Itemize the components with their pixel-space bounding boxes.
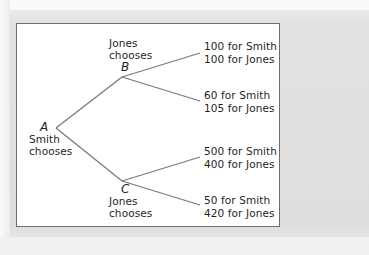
node-a-caption: Smith chooses [29,133,72,157]
edge-b-payoff-2 [122,77,200,101]
payoff-3: 500 for Smith 400 for Jones [204,145,277,170]
node-b-caption: Jones chooses [109,37,152,61]
payoff-1: 100 for Smith 100 for Jones [204,40,277,65]
payoff-1-smith: 100 for Smith [204,40,277,53]
game-tree-edges [0,0,369,255]
payoff-4-smith: 50 for Smith [204,194,275,207]
node-a-label: A [40,121,48,133]
edge-a-b [56,77,122,128]
node-c-caption-line2: chooses [109,207,152,219]
payoff-2: 60 for Smith 105 for Jones [204,89,275,114]
node-a-caption-line2: chooses [29,145,72,157]
node-c-caption: Jones chooses [109,195,152,219]
payoff-4: 50 for Smith 420 for Jones [204,194,275,219]
payoff-1-jones: 100 for Jones [204,53,277,66]
payoff-4-jones: 420 for Jones [204,207,275,220]
payoff-2-jones: 105 for Jones [204,102,275,115]
edge-c-payoff-3 [122,157,200,181]
payoff-3-jones: 400 for Jones [204,158,277,171]
node-c-caption-line1: Jones [109,195,152,207]
payoff-2-smith: 60 for Smith [204,89,275,102]
node-b-caption-line2: chooses [109,49,152,61]
node-c-label: C [121,183,129,195]
node-b-label: B [121,61,129,73]
node-a-caption-line1: Smith [29,133,72,145]
payoff-3-smith: 500 for Smith [204,145,277,158]
node-b-caption-line1: Jones [109,37,152,49]
